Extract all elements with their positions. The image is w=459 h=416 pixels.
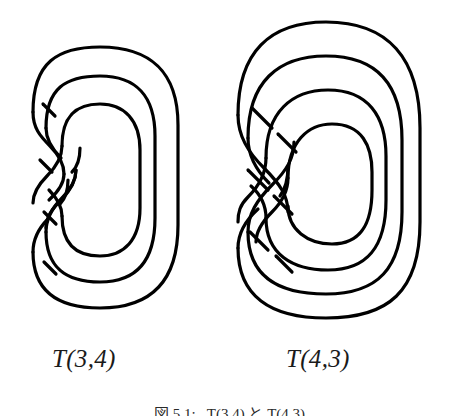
knot-diagram-t34 bbox=[0, 0, 230, 340]
crossing-dash-2 bbox=[40, 160, 52, 172]
knot-label-t34: T(3,4) bbox=[52, 345, 116, 373]
strand-inner bbox=[288, 124, 372, 244]
figure-page: T(3,4) T(4,3) 図 5.1: T(3,4) と T(4,3) bbox=[0, 0, 459, 416]
figure-caption: 図 5.1: T(3,4) と T(4,3) bbox=[0, 406, 459, 416]
knot-svg-t34 bbox=[0, 0, 230, 340]
knot-svg-t43 bbox=[222, 0, 459, 340]
knot-diagram-t43 bbox=[222, 0, 459, 340]
knot-label-t43: T(4,3) bbox=[286, 345, 350, 373]
crossing-dash-1 bbox=[252, 108, 272, 128]
braid-under-1a bbox=[46, 128, 61, 158]
crossing-dash-5 bbox=[250, 232, 268, 250]
